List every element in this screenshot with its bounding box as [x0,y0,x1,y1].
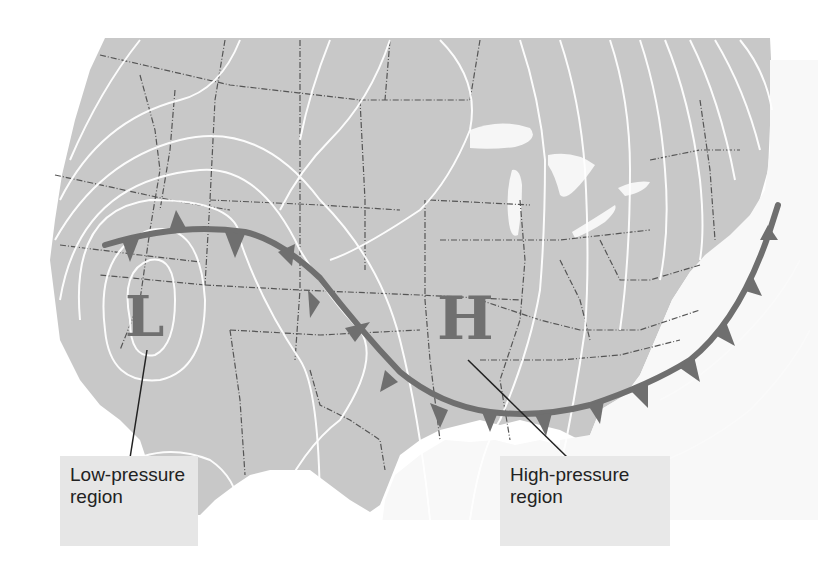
high-label-line2: region [510,486,660,508]
high-pressure-symbol: H [437,290,494,346]
low-pressure-symbol: L [125,288,164,344]
high-pressure-label: High-pressure region [500,456,670,546]
low-pressure-label: Low-pressure region [60,456,198,546]
top-margin [0,0,818,36]
low-label-line2: region [70,486,188,508]
high-label-line1: High-pressure [510,464,660,486]
low-label-line1: Low-pressure [70,464,188,486]
